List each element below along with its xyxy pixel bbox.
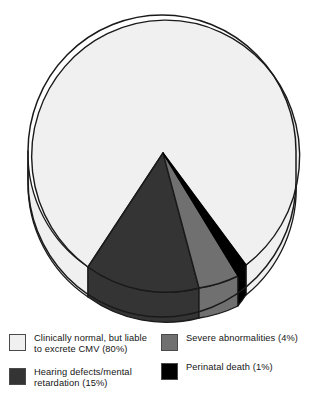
pie-chart-svg [0,0,323,330]
legend-item-perinatal-death: Perinatal death (1%) [161,362,321,380]
legend-item-severe-abnormalities: Severe abnormalities (4%) [161,333,321,351]
legend-label-perinatal-death: Perinatal death (1%) [186,362,273,373]
legend-swatch-clinically-normal [9,334,26,351]
legend-column-right: Severe abnormalities (4%) Perinatal deat… [161,333,321,391]
pie-top-face [32,20,300,292]
legend-column-left: Clinically normal, but liable to excrete… [9,333,159,401]
legend-item-hearing-defects: Hearing defects/mental retardation (15%) [9,367,159,390]
legend-swatch-hearing-defects [9,368,26,385]
legend-swatch-perinatal-death [161,363,178,380]
legend-item-clinically-normal: Clinically normal, but liable to excrete… [9,333,159,356]
pie-chart [0,0,323,330]
legend-label-clinically-normal: Clinically normal, but liable to excrete… [34,333,147,356]
legend-label-hearing-defects: Hearing defects/mental retardation (15%) [34,367,132,390]
legend: Clinically normal, but liable to excrete… [0,333,323,409]
legend-label-severe-abnormalities: Severe abnormalities (4%) [186,333,298,344]
legend-swatch-severe-abnormalities [161,334,178,351]
